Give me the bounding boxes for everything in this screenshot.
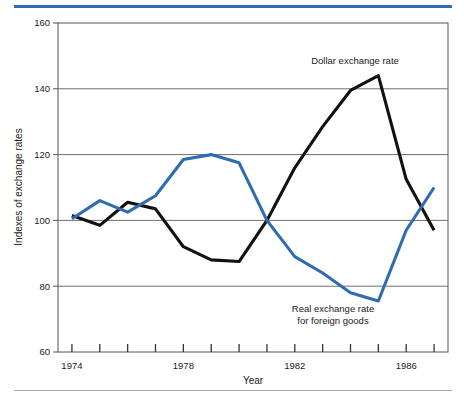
dollar-exchange-rate-label: Dollar exchange rate [311, 55, 399, 66]
y-tick-label-60: 60 [39, 346, 50, 357]
y-tick-label-120: 120 [34, 149, 50, 160]
line-chart-svg: 6080100120140160 1974197819821986 Dollar… [0, 0, 464, 401]
x-axis-tick-labels-group: 1974197819821986 [61, 360, 416, 371]
y-tick-label-80: 80 [39, 281, 50, 292]
y-axis-tick-labels-group: 6080100120140160 [34, 17, 58, 357]
y-tick-label-160: 160 [34, 17, 50, 28]
real-exchange-rate-label: Real exchange ratefor foreign goods [292, 303, 374, 326]
x-axis-title: Year [243, 375, 264, 386]
y-tick-label-140: 140 [34, 83, 50, 94]
x-tick-label-1978: 1978 [173, 360, 194, 371]
y-tick-label-100: 100 [34, 215, 50, 226]
x-tick-label-1974: 1974 [61, 360, 82, 371]
x-tick-label-1986: 1986 [396, 360, 417, 371]
y-axis-title: Indexes of exchange rates [13, 128, 24, 245]
x-tick-label-1982: 1982 [284, 360, 305, 371]
figure-container: 6080100120140160 1974197819821986 Dollar… [0, 0, 464, 401]
plot-area-frame [58, 23, 448, 352]
